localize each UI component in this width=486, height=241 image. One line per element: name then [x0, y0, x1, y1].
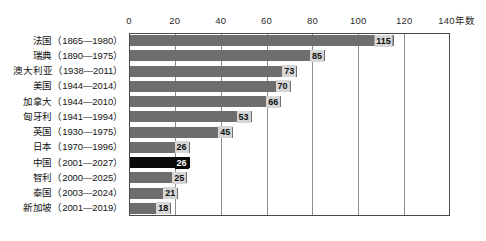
bar-row: 53: [130, 111, 451, 122]
bar: [130, 81, 291, 92]
category-label: 匈牙利（1941—1994）: [23, 111, 123, 123]
category-label: 新加坡（2001—2019）: [23, 202, 123, 214]
bar-chart: 020406080100120140年数 法国（1865—1980）瑞典（189…: [0, 0, 486, 241]
bar-value-label: 18: [156, 202, 170, 214]
category-label: 法国（1865—1980）: [33, 35, 123, 47]
x-axis-tick-label: 80: [307, 15, 318, 26]
x-axis-tick-label: 40: [215, 15, 226, 26]
bar-row: 115: [130, 35, 451, 46]
bar-value-label: 26: [175, 141, 189, 153]
bar-row: 45: [130, 127, 451, 138]
x-axis-tick-label: 120: [396, 15, 412, 26]
bar-value-label: 53: [237, 111, 251, 123]
bar-value-label: 21: [163, 187, 177, 199]
category-label: 英国（1930—1975）: [33, 126, 123, 138]
category-label: 中国（2001—2027）: [33, 157, 123, 169]
x-axis-tick-0: 0: [126, 14, 131, 28]
bar-row: 70: [130, 81, 451, 92]
bars-layer: 1158573706653452626252118: [130, 34, 449, 215]
x-axis-tick-80: 80: [307, 14, 318, 28]
bar-value-label: 115: [374, 35, 393, 47]
bar: [130, 66, 297, 77]
bar-value-label: 85: [310, 50, 324, 62]
bar-row: 66: [130, 96, 451, 107]
bar-row: 26: [130, 157, 451, 168]
bar-value-label: 73: [282, 65, 296, 77]
category-label-column: 法国（1865—1980）瑞典（1890—1975）澳大利亚（1938—2011…: [0, 33, 126, 216]
bar-value-label: 66: [266, 96, 280, 108]
category-label: 智利（2000—2025）: [33, 172, 123, 184]
bar-row: 21: [130, 188, 451, 199]
category-label: 瑞典（1890—1975）: [33, 50, 123, 62]
x-axis-tick-label: 100: [350, 15, 366, 26]
x-axis-tick-label: 20: [169, 15, 180, 26]
bar-value-label: 25: [172, 172, 186, 184]
bar: [130, 111, 252, 122]
bar-row: 25: [130, 172, 451, 183]
bar-row: 73: [130, 66, 451, 77]
x-axis-unit-label: 年数: [455, 15, 475, 26]
x-axis-tick-40: 40: [215, 14, 226, 28]
category-label: 加拿大（1944—2010）: [23, 96, 123, 108]
x-axis-tick-120: 120: [396, 14, 412, 28]
x-axis-tick-label: 60: [261, 15, 272, 26]
bar: [130, 35, 394, 46]
category-label: 日本（1970—1996）: [33, 141, 123, 153]
x-axis-tick-100: 100: [350, 14, 366, 28]
bar-value-label: 45: [218, 126, 232, 138]
category-label: 美国（1944—2014）: [33, 80, 123, 92]
x-axis-tick-label: 140: [438, 15, 454, 26]
bar-row: 85: [130, 50, 451, 61]
bar: [130, 96, 281, 107]
category-label: 澳大利亚（1938—2011）: [13, 65, 123, 77]
x-axis-tick-20: 20: [169, 14, 180, 28]
x-axis-tick-60: 60: [261, 14, 272, 28]
bar: [130, 50, 325, 61]
bar-row: 18: [130, 203, 451, 214]
category-label: 泰国（2003—2024）: [33, 187, 123, 199]
bar-value-label: 26: [175, 157, 189, 169]
x-axis-tick-label: 0: [126, 15, 131, 26]
bar-row: 26: [130, 142, 451, 153]
x-axis-tick-row: 020406080100120140年数: [0, 14, 486, 30]
x-axis-tick-140: 140年数: [438, 14, 475, 28]
bar-value-label: 70: [275, 80, 289, 92]
